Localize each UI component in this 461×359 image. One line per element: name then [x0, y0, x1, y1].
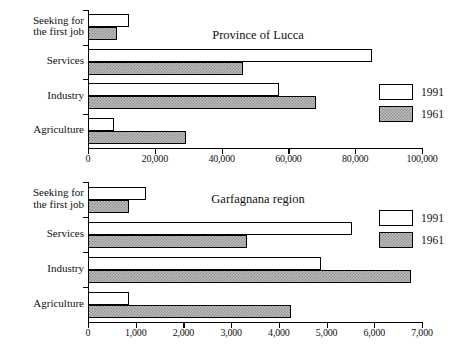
bar-1961 — [88, 62, 243, 75]
bar-1961 — [88, 235, 247, 248]
legend-swatch-1961-icon — [379, 106, 413, 122]
bar-1991 — [88, 292, 129, 305]
category-label: Services — [47, 55, 84, 67]
y-axis-tick — [83, 79, 89, 80]
bar-1991 — [88, 257, 321, 270]
y-axis-tick — [83, 182, 89, 183]
legend-label-1991: 1991 — [421, 85, 444, 99]
plot-area-bottom: 01,0002,0003,0004,0005,0006,0007,000Agri… — [0, 178, 461, 359]
legend-label-1991: 1991 — [421, 211, 444, 225]
bar-1991 — [88, 187, 146, 200]
legend-label-1961: 1961 — [421, 107, 444, 121]
bar-1991 — [88, 83, 279, 96]
category-label: Seeking forthe first job — [33, 15, 84, 38]
bar-1961 — [88, 96, 316, 109]
y-axis-tick — [83, 217, 89, 218]
legend-swatch-1991-icon — [379, 210, 413, 226]
x-axis-tick-label: 100,000 — [406, 154, 437, 164]
category-label: Agriculture — [33, 124, 84, 136]
x-axis-tick-label: 80,000 — [342, 154, 368, 164]
category-label: Agriculture — [33, 298, 84, 310]
bar-1991 — [88, 14, 129, 27]
bar-1961 — [88, 131, 186, 144]
y-axis-tick — [83, 10, 89, 11]
bar-1961 — [88, 305, 291, 318]
bar-1991 — [88, 222, 352, 235]
value-axis-line — [88, 322, 423, 323]
legend-swatch-1961-icon — [379, 232, 413, 248]
chart-province-of-lucca: Province of Lucca 020,00040,00060,00080,… — [0, 0, 461, 178]
x-axis-tick-label: 20,000 — [142, 154, 168, 164]
chart-garfagnana-region: Garfagnana region 01,0002,0003,0004,0005… — [0, 178, 461, 359]
x-axis-tick-label: 3,000 — [220, 328, 242, 338]
x-axis-tick-label: 5,000 — [316, 328, 338, 338]
bar-1991 — [88, 118, 114, 131]
value-axis-line — [88, 148, 423, 149]
category-label: Services — [47, 228, 84, 240]
bar-1991 — [88, 49, 372, 62]
category-label: Seeking forthe first job — [33, 187, 84, 210]
x-axis-tick-label: 60,000 — [275, 154, 301, 164]
x-axis-tick-label: 6,000 — [364, 328, 386, 338]
y-axis-tick — [83, 45, 89, 46]
x-axis-tick-label: 1,000 — [125, 328, 147, 338]
x-axis-tick-label: 40,000 — [208, 154, 234, 164]
bar-1961 — [88, 27, 117, 40]
y-axis-tick — [83, 287, 89, 288]
x-axis-tick-label: 2,000 — [173, 328, 195, 338]
y-axis-tick — [83, 252, 89, 253]
x-axis-tick-label: 0 — [86, 154, 91, 164]
bar-1961 — [88, 270, 411, 283]
x-axis-tick-label: 7,000 — [411, 328, 433, 338]
legend-label-1961: 1961 — [421, 233, 444, 247]
category-label: Industry — [47, 263, 84, 275]
x-axis-tick-label: 0 — [86, 328, 91, 338]
figure-root: Province of Lucca 020,00040,00060,00080,… — [0, 0, 461, 359]
bar-1961 — [88, 200, 129, 213]
y-axis-tick — [83, 114, 89, 115]
category-label: Industry — [47, 90, 84, 102]
legend-swatch-1991-icon — [379, 84, 413, 100]
x-axis-tick-label: 4,000 — [268, 328, 290, 338]
